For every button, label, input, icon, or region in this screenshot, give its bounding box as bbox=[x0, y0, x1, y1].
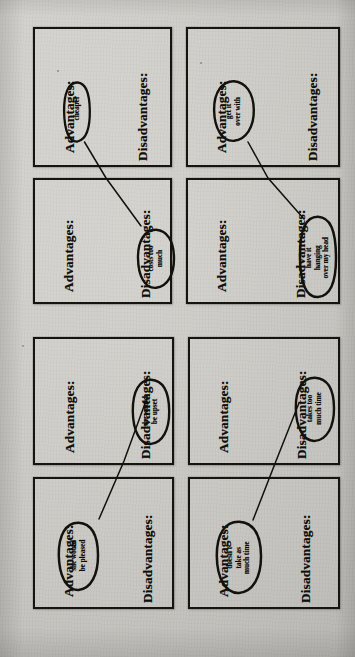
annotation-text-takes-too-much-time: takes toomuch time bbox=[306, 377, 323, 441]
annotation-text-she-would-be-pleased: she wouldbe pleased bbox=[70, 522, 87, 590]
panel-5-advantages-label: Advantages: bbox=[62, 380, 78, 453]
scan-speck bbox=[57, 70, 59, 72]
annotation-text-have-it-hanging-over-my-head: have ithangingover my head bbox=[305, 220, 331, 296]
annotation-bubble-doesnt-take-as-much-time: doesn'ttake asmuch time bbox=[215, 520, 263, 594]
annotation-bubble-costs-too-much: costs toomuch bbox=[136, 228, 176, 290]
panel-1-disadvantages-label: Disadvantages: bbox=[135, 72, 151, 161]
panel-4-advantages-label: Advantages: bbox=[214, 219, 230, 292]
panel-6-advantages-label: Advantages: bbox=[216, 380, 232, 453]
annotation-bubble-have-it-hanging-over-my-head: have ithangingover my head bbox=[298, 215, 338, 299]
panel-7-disadvantages-label: Disadvantages: bbox=[140, 514, 156, 603]
panel-2: Advantages: Disadvantages: bbox=[186, 27, 340, 167]
scan-speck bbox=[200, 62, 202, 64]
panel-7: Advantages: Disadvantages: bbox=[33, 477, 174, 609]
annotation-text-she-would-be-upset: she wouldbe upset bbox=[142, 381, 159, 443]
scan-speck bbox=[22, 345, 24, 347]
panel-8-disadvantages-label: Disadvantages: bbox=[298, 514, 314, 603]
panel-2-disadvantages-label: Disadvantages: bbox=[305, 72, 321, 161]
annotation-bubble-she-would-be-upset: she wouldbe upset bbox=[131, 378, 171, 446]
panel-1: Advantages: Disadvantages: bbox=[33, 27, 172, 167]
annotation-text-costs-too-much: costs toomuch bbox=[147, 230, 164, 288]
annotation-text-cheaper: cheaper bbox=[73, 84, 82, 132]
panel-3-advantages-label: Advantages: bbox=[61, 219, 77, 292]
annotation-text-get-it-over-with: get itover with bbox=[225, 82, 242, 142]
panel-8: Advantages: Disadvantages: bbox=[188, 477, 340, 609]
annotation-text-doesnt-take-as-much-time: doesn'ttake asmuch time bbox=[226, 522, 252, 594]
annotation-bubble-cheaper: cheaper bbox=[62, 80, 92, 144]
annotation-bubble-she-would-be-pleased: she wouldbe pleased bbox=[57, 521, 100, 591]
annotation-bubble-get-it-over-with: get itover with bbox=[212, 79, 256, 143]
annotation-bubble-takes-too-much-time: takes toomuch time bbox=[294, 376, 336, 442]
worksheet-sheet: Advantages: Disadvantages: Advantages: D… bbox=[0, 0, 355, 657]
